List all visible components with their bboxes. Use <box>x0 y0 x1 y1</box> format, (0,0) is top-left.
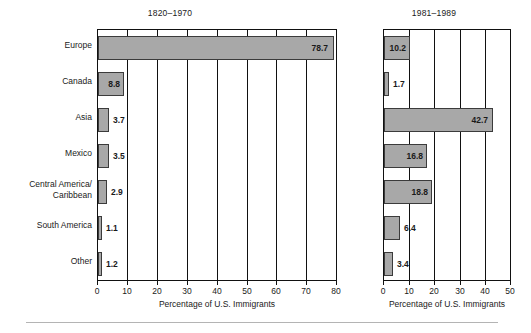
bar-row-r-asia: 42.7 <box>384 102 510 138</box>
plot-area-left: 78.7 8.8 3.7 3.5 2.9 <box>97 29 337 281</box>
bar-r-south-america[interactable] <box>384 216 400 240</box>
x-tick-30 <box>187 281 188 285</box>
chart-panel-1820-1970: 1820–1970 Europe Canada Asia Mexico Cent… <box>0 0 348 315</box>
bar-row-central-america: 2.9 <box>98 174 336 210</box>
bar-central-america[interactable] <box>98 180 107 204</box>
bar-row-r-other: 3.4 <box>384 246 510 282</box>
x-tick-0 <box>97 281 98 285</box>
bar-south-america[interactable] <box>98 216 102 240</box>
x-tick-60 <box>276 281 277 285</box>
x-tick-label-60: 60 <box>264 286 288 296</box>
category-label-europe: Europe <box>0 40 92 51</box>
category-axis-labels: Europe Canada Asia Mexico Central Americ… <box>0 29 92 281</box>
footer-divider-rule <box>26 322 498 323</box>
bar-row-r-central-america: 18.8 <box>384 174 510 210</box>
panel-title-right: 1981–1989 <box>348 8 520 18</box>
bar-asia[interactable] <box>98 108 109 132</box>
bar-value-r-south-america: 6.4 <box>404 216 434 240</box>
bar-value-r-canada: 1.7 <box>393 72 423 96</box>
immigration-bar-chart-figure: 1820–1970 Europe Canada Asia Mexico Cent… <box>0 0 531 333</box>
bar-value-central-america: 2.9 <box>111 180 141 204</box>
bar-value-r-other: 3.4 <box>397 252 427 276</box>
x-tick-label-r-30: 30 <box>448 286 472 296</box>
x-tick-80 <box>336 281 337 285</box>
bar-value-r-europe: 10.2 <box>384 36 406 60</box>
bar-r-other[interactable] <box>384 252 393 276</box>
bar-other[interactable] <box>98 252 102 276</box>
bar-row-r-europe: 10.2 <box>384 30 510 66</box>
bar-value-r-central-america: 18.8 <box>384 180 428 204</box>
x-axis-right: 0 10 20 30 40 50 <box>383 281 511 297</box>
category-label-asia: Asia <box>0 112 92 123</box>
x-tick-label-r-10: 10 <box>397 286 421 296</box>
x-tick-r-40 <box>485 281 486 285</box>
bar-rows-left: 78.7 8.8 3.7 3.5 2.9 <box>98 30 336 280</box>
bar-row-europe: 78.7 <box>98 30 336 66</box>
bar-value-r-asia: 42.7 <box>446 108 488 132</box>
category-label-central-america: Central America/ Caribbean <box>0 179 92 201</box>
x-tick-r-20 <box>434 281 435 285</box>
x-tick-r-50 <box>510 281 511 285</box>
x-axis-title-left: Percentage of U.S. Immigrants <box>97 299 337 309</box>
panel-title-left: 1820–1970 <box>0 8 340 18</box>
x-tick-label-r-40: 40 <box>473 286 497 296</box>
bar-value-south-america: 1.1 <box>106 216 136 240</box>
bar-value-r-mexico: 16.8 <box>384 144 423 168</box>
x-tick-label-70: 70 <box>294 286 318 296</box>
bar-row-r-south-america: 6.4 <box>384 210 510 246</box>
x-tick-label-20: 20 <box>145 286 169 296</box>
x-tick-r-30 <box>460 281 461 285</box>
x-axis-left: 0 10 20 30 40 50 60 70 80 <box>97 281 337 297</box>
category-label-canada: Canada <box>0 76 92 87</box>
x-tick-10 <box>127 281 128 285</box>
category-label-other: Other <box>0 256 92 267</box>
bar-mexico[interactable] <box>98 144 109 168</box>
x-tick-r-10 <box>409 281 410 285</box>
bar-value-asia: 3.7 <box>113 108 143 132</box>
x-axis-title-right: Percentage of U.S. Immigrants <box>383 299 511 309</box>
x-tick-label-30: 30 <box>175 286 199 296</box>
bar-row-asia: 3.7 <box>98 102 336 138</box>
x-tick-label-50: 50 <box>235 286 259 296</box>
bar-row-r-canada: 1.7 <box>384 66 510 102</box>
x-tick-20 <box>157 281 158 285</box>
x-tick-r-0 <box>383 281 384 285</box>
category-label-south-america: South America <box>0 220 92 231</box>
bar-r-canada[interactable] <box>384 72 389 96</box>
bar-row-canada: 8.8 <box>98 66 336 102</box>
bar-row-other: 1.2 <box>98 246 336 282</box>
bar-row-r-mexico: 16.8 <box>384 138 510 174</box>
bar-rows-right: 10.2 1.7 42.7 16.8 18.8 6.4 <box>384 30 510 280</box>
bar-value-europe: 78.7 <box>284 36 328 60</box>
bar-value-mexico: 3.5 <box>113 144 143 168</box>
bar-value-canada: 8.8 <box>98 72 120 96</box>
x-tick-40 <box>217 281 218 285</box>
x-tick-70 <box>306 281 307 285</box>
bar-row-mexico: 3.5 <box>98 138 336 174</box>
x-tick-label-40: 40 <box>205 286 229 296</box>
x-tick-label-10: 10 <box>115 286 139 296</box>
x-tick-label-0: 0 <box>85 286 109 296</box>
x-tick-label-80: 80 <box>324 286 348 296</box>
bar-row-south-america: 1.1 <box>98 210 336 246</box>
category-label-mexico: Mexico <box>0 148 92 159</box>
x-tick-label-r-20: 20 <box>422 286 446 296</box>
x-tick-label-r-50: 50 <box>498 286 522 296</box>
bar-value-other: 1.2 <box>106 252 136 276</box>
x-tick-50 <box>247 281 248 285</box>
plot-area-right: 10.2 1.7 42.7 16.8 18.8 6.4 <box>383 29 511 281</box>
x-tick-label-r-0: 0 <box>371 286 395 296</box>
